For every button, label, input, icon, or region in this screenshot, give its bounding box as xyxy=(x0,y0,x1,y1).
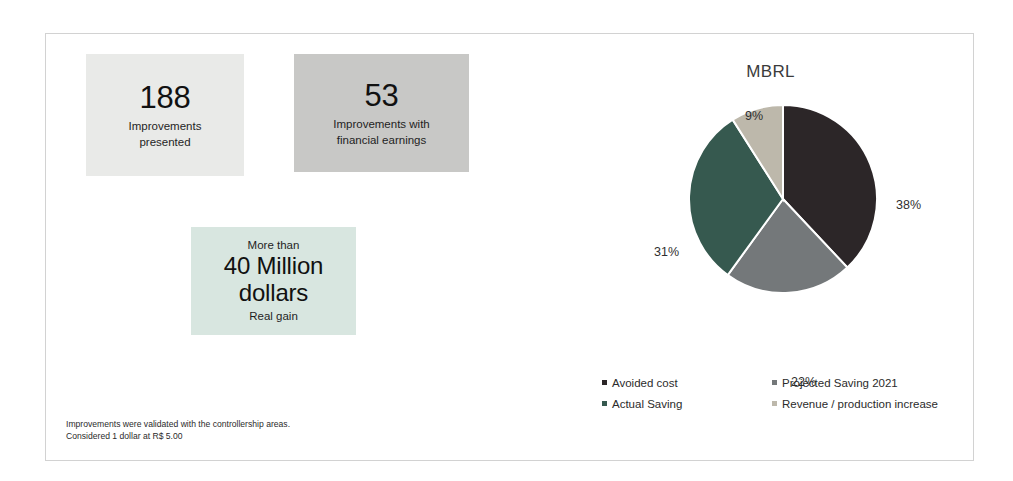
legend-swatch-icon-projected-saving-2021 xyxy=(772,380,777,385)
kpi-value-real-gain: 40 Million dollars xyxy=(224,253,323,307)
legend-label-actual-saving: Actual Saving xyxy=(612,398,682,410)
kpi-value-improvements-presented: 188 xyxy=(140,80,191,117)
pie-label-actual-saving: 31% xyxy=(654,245,679,259)
legend-swatch-icon-revenue-production-increase xyxy=(772,401,777,406)
kpi-card-improvements-with-financial-earnings: 53 Improvements with financial earnings xyxy=(294,54,469,172)
legend-item-actual-saving[interactable]: Actual Saving xyxy=(602,398,772,410)
kpi-card-real-gain: More than 40 Million dollars Real gain xyxy=(191,227,356,335)
legend-item-avoided-cost[interactable]: Avoided cost xyxy=(602,377,772,389)
kpi-caption-improvements-with-financial-earnings: Improvements with financial earnings xyxy=(333,117,430,148)
kpi-prefix-real-gain: More than xyxy=(248,239,300,253)
pie-chart-region: MBRL 38% 22% 31% 9% Avoided cost Project… xyxy=(566,34,975,462)
legend-item-projected-saving-2021[interactable]: Projected Saving 2021 xyxy=(772,377,972,389)
legend-swatch-icon-avoided-cost xyxy=(602,380,607,385)
slide-footnote: Improvements were validated with the con… xyxy=(66,419,290,443)
kpi-caption-real-gain: Real gain xyxy=(249,310,298,324)
legend-label-revenue-production-increase: Revenue / production increase xyxy=(782,398,938,410)
slide-frame: 188 Improvements presented 53 Improvemen… xyxy=(45,33,974,461)
kpi-card-improvements-presented: 188 Improvements presented xyxy=(86,54,244,176)
legend-item-revenue-production-increase[interactable]: Revenue / production increase xyxy=(772,398,972,410)
legend-label-projected-saving-2021: Projected Saving 2021 xyxy=(782,377,898,389)
chart-legend: Avoided cost Projected Saving 2021 Actua… xyxy=(602,372,972,414)
pie-chart-svg xyxy=(688,104,878,294)
kpi-value-improvements-with-financial-earnings: 53 xyxy=(365,78,399,115)
legend-label-avoided-cost: Avoided cost xyxy=(612,377,678,389)
chart-title: MBRL xyxy=(566,62,975,82)
pie-label-avoided-cost: 38% xyxy=(896,198,921,212)
kpi-caption-improvements-presented: Improvements presented xyxy=(129,119,202,150)
kpi-region: 188 Improvements presented 53 Improvemen… xyxy=(46,34,566,462)
legend-swatch-icon-actual-saving xyxy=(602,401,607,406)
pie-label-revenue-production-increase: 9% xyxy=(745,109,763,123)
pie-chart xyxy=(688,104,878,294)
